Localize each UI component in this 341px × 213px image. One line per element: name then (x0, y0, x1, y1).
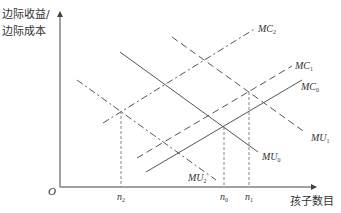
mc1-curve (137, 66, 292, 158)
x-axis-label: 孩子数目 (290, 196, 334, 207)
mc2-label: MC2 (258, 24, 276, 35)
diagram-canvas (0, 0, 341, 213)
mc1-label: MC1 (295, 61, 313, 72)
y-axis-label-line1: 边际收益/ (2, 9, 50, 20)
n2-tick-label: n2 (117, 192, 125, 203)
mc2-curve (103, 28, 256, 123)
mu2-label: MU2 (188, 173, 207, 184)
mc0-label: MC0 (301, 82, 319, 93)
mu0-curve (120, 52, 258, 152)
origin-label: O (48, 186, 56, 197)
n0-tick-label: n0 (220, 192, 228, 203)
y-axis-label-line2: 边际成本 (2, 26, 46, 37)
n1-tick-label: n1 (245, 192, 253, 203)
mu1-label: MU1 (311, 133, 330, 144)
mu1-curve (172, 37, 306, 133)
marginal-analysis-diagram: 边际收益/ 边际成本 孩子数目 O MC2 MC1 MC0 MU1 MU0 MU… (0, 0, 341, 213)
mu0-label: MU0 (262, 152, 281, 163)
mu2-curve (77, 80, 216, 180)
